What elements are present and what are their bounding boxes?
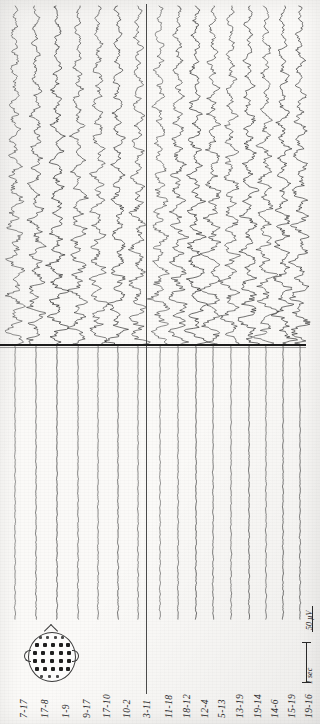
channel-label-1-9: 1-9 xyxy=(61,704,71,718)
right-ear-marker-icon xyxy=(72,650,79,662)
eeg-trace-3-11 xyxy=(128,6,150,619)
montage-chain-divider xyxy=(146,4,147,694)
eeg-trace-9-17 xyxy=(67,6,88,619)
channel-label-18-12: 18-12 xyxy=(182,694,192,718)
electrode-marker xyxy=(67,651,71,655)
electrode-marker xyxy=(51,667,55,671)
electrode-marker xyxy=(50,651,54,655)
electrode-marker xyxy=(35,643,39,647)
seizure-offset-line xyxy=(0,344,306,346)
channel-label-13-19: 13-19 xyxy=(235,694,245,718)
electrode-marker xyxy=(41,659,45,663)
electrode-marker xyxy=(51,643,55,647)
electrode-marker xyxy=(59,643,63,647)
seizure-offset-line-shadow xyxy=(0,347,306,348)
margin-note xyxy=(1,276,35,292)
eeg-trace-17-8 xyxy=(27,6,47,619)
channel-label-17-8: 17-8 xyxy=(40,699,50,718)
electrode-marker xyxy=(54,636,57,639)
eeg-trace-11-18 xyxy=(147,6,170,619)
eeg-trace-19-16 xyxy=(288,6,310,619)
electrode-marker xyxy=(41,651,45,655)
trace-paths xyxy=(5,6,310,619)
amplitude-scale-label: 50 µV xyxy=(305,611,314,631)
electrode-marker xyxy=(48,675,51,678)
eeg-trace-1-9 xyxy=(46,6,69,619)
eeg-trace-19-14 xyxy=(238,6,260,619)
electrode-marker xyxy=(67,659,71,663)
electrode-marker xyxy=(59,659,63,663)
channel-label-17-10: 17-10 xyxy=(102,694,112,718)
time-scale-label: 1 sec xyxy=(305,668,314,684)
channel-label-3-11: 3-11 xyxy=(142,700,152,718)
channel-label-7-17: 7-17 xyxy=(19,699,29,718)
eeg-trace-14-6 xyxy=(253,6,279,619)
eeg-trace-12-4 xyxy=(184,6,207,619)
channel-label-14-6: 14-6 xyxy=(270,699,280,718)
channel-label-9-17: 9-17 xyxy=(82,699,92,718)
electrode-marker xyxy=(50,659,54,663)
eeg-trace-18-12 xyxy=(168,6,188,619)
head-electrode-montage xyxy=(24,626,78,688)
scale-bar: 1 sec 50 µV xyxy=(296,636,320,724)
electrode-marker xyxy=(33,651,37,655)
electrode-marker xyxy=(66,667,70,671)
electrode-marker xyxy=(33,659,37,663)
electrode-marker xyxy=(59,667,63,671)
head-outline xyxy=(28,632,76,682)
electrode-marker xyxy=(43,643,47,647)
electrode-marker xyxy=(66,643,70,647)
channel-label-19-14: 19-14 xyxy=(253,694,263,718)
eeg-trace-10-2 xyxy=(105,6,128,619)
eeg-trace-7-17 xyxy=(5,6,25,619)
eeg-trace-13-19 xyxy=(218,6,240,619)
electrode-marker xyxy=(43,667,47,671)
channel-label-12-4: 12-4 xyxy=(200,699,210,718)
channel-label-5-13: 5-13 xyxy=(217,699,227,718)
eeg-trace-canvas xyxy=(0,0,320,724)
left-ear-marker-icon xyxy=(24,650,31,662)
electrode-marker xyxy=(40,675,43,678)
electrode-marker xyxy=(39,636,42,639)
eeg-trace-5-13 xyxy=(200,6,221,619)
electrode-marker xyxy=(56,675,59,678)
eeg-trace-17-10 xyxy=(89,6,109,619)
channel-label-10-2: 10-2 xyxy=(122,699,132,718)
electrode-marker xyxy=(46,636,49,639)
scale-bar-tick-top xyxy=(302,642,311,643)
scan-sheet: 7-1717-81-99-1717-1010-23-1111-1818-1212… xyxy=(0,0,320,724)
electrode-marker xyxy=(59,651,63,655)
channel-label-11-18: 11-18 xyxy=(164,695,174,718)
electrode-marker xyxy=(35,667,39,671)
electrode-marker xyxy=(61,636,64,639)
